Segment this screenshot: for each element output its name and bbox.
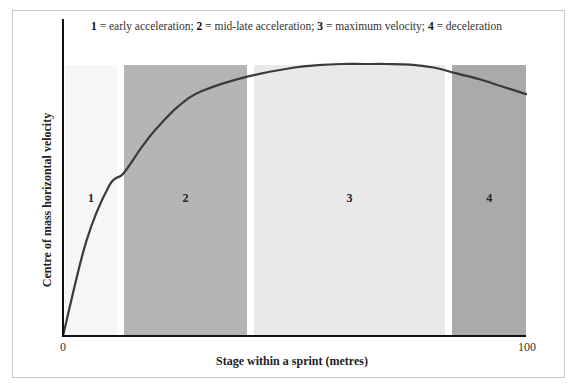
x-axis-label: Stage within a sprint (metres)	[216, 354, 368, 369]
x-tick-100: 100	[518, 340, 536, 355]
x-tick-0: 0	[60, 340, 66, 355]
velocity-plot	[0, 0, 579, 389]
y-axis-label: Centre of mass horizontal velocity	[40, 113, 55, 287]
velocity-curve	[63, 64, 526, 336]
